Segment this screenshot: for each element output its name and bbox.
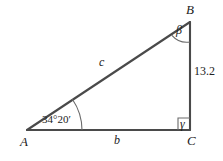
angle-label-gamma: γ <box>180 118 185 130</box>
side-label-hypotenuse: c <box>99 56 104 68</box>
vertex-label-a: A <box>20 135 28 148</box>
angle-label-beta: β <box>176 24 182 36</box>
side-label-base: b <box>114 134 120 146</box>
side-length-vertical: 13.2 <box>194 65 215 77</box>
vertex-label-c: C <box>187 134 196 147</box>
angle-arc-at-a <box>72 99 82 130</box>
triangle-figure: A B C c b 13.2 34°20′ β γ <box>0 0 223 161</box>
angle-measure-at-a: 34°20′ <box>42 114 71 125</box>
vertex-label-b: B <box>186 3 194 16</box>
